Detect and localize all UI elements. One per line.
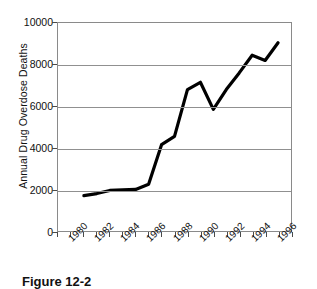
- data-series-line: [58, 23, 291, 231]
- figure-caption: Figure 12-2: [22, 274, 91, 289]
- y-axis-tick-marks: [0, 22, 57, 232]
- gridline: [58, 107, 291, 108]
- gridline: [58, 191, 291, 192]
- plot-area: [57, 22, 292, 232]
- gridline: [58, 149, 291, 150]
- gridline: [58, 65, 291, 66]
